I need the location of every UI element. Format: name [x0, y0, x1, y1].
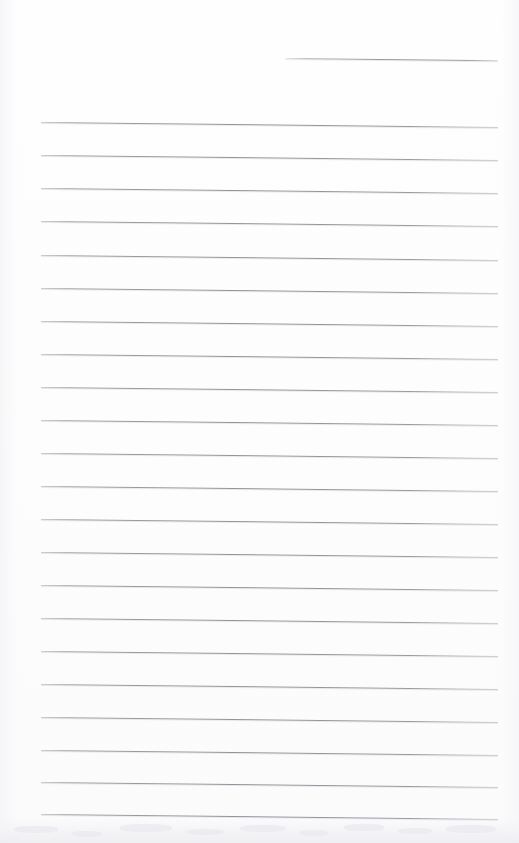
page-left-edge-shading	[0, 0, 18, 843]
ruled-line	[41, 188, 498, 194]
ruled-line	[41, 122, 498, 128]
ruled-line	[41, 519, 498, 525]
ruled-line-partial	[285, 58, 498, 61]
scan-fleck	[120, 824, 172, 832]
ruled-line	[41, 288, 498, 294]
ruled-line	[41, 651, 498, 657]
scan-fleck	[344, 824, 384, 831]
ruled-line-layer	[0, 0, 519, 843]
ruled-line	[41, 255, 498, 261]
ruled-line	[41, 814, 498, 820]
scan-fleck	[14, 826, 58, 833]
ruled-line	[41, 387, 498, 393]
ruled-line	[41, 420, 498, 426]
ruled-line	[41, 155, 498, 161]
ruled-line	[41, 782, 498, 788]
ruled-line	[41, 221, 498, 227]
paper-texture	[0, 0, 519, 843]
ruled-line	[41, 585, 498, 591]
scan-fleck	[186, 829, 224, 835]
scan-fleck	[300, 830, 328, 836]
bottom-scan-smudge	[0, 818, 519, 843]
scan-fleck	[240, 825, 286, 832]
ruled-line	[41, 453, 498, 459]
ruled-line	[41, 717, 498, 723]
notebook-page	[0, 0, 519, 843]
ruled-line	[41, 321, 498, 327]
page-right-edge-shading	[501, 0, 519, 843]
ruled-line	[41, 354, 498, 360]
ruled-line	[41, 486, 498, 492]
ruled-line	[41, 618, 498, 624]
ruled-line	[41, 552, 498, 558]
ruled-line	[41, 750, 498, 756]
scan-fleck	[398, 828, 432, 834]
scan-fleck	[72, 831, 102, 837]
ruled-line	[41, 684, 498, 690]
scan-fleck	[446, 825, 496, 833]
